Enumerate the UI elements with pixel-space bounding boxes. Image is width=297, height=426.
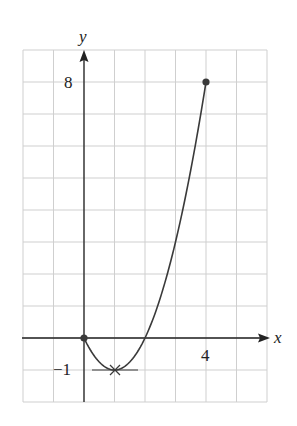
- tick-label-x-4: 4: [201, 346, 210, 365]
- tick-label-y-neg1: −1: [53, 360, 71, 379]
- endpoint-origin: [80, 334, 87, 341]
- grid: [23, 50, 267, 402]
- graph: y x 8 4 −1: [0, 0, 297, 426]
- y-axis-label: y: [77, 27, 87, 46]
- tick-label-y-8: 8: [64, 73, 73, 92]
- endpoint-top: [202, 78, 209, 85]
- x-axis-label: x: [273, 328, 282, 347]
